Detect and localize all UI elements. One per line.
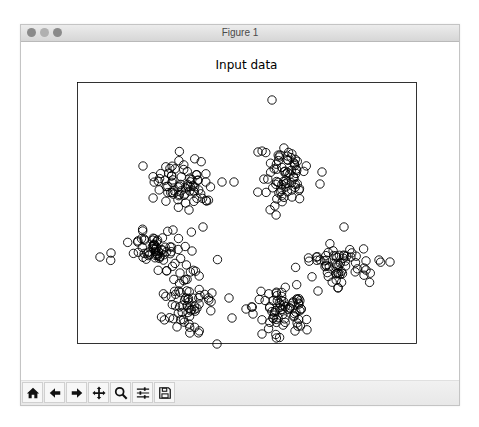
data-point <box>291 263 299 271</box>
data-point <box>386 258 394 266</box>
data-point <box>124 238 132 246</box>
data-point <box>375 256 383 264</box>
save-button[interactable] <box>154 382 175 403</box>
data-point <box>194 176 202 184</box>
data-point <box>164 227 172 235</box>
data-point <box>230 178 238 186</box>
data-point <box>280 144 288 152</box>
data-point <box>341 257 349 265</box>
sliders-icon <box>136 386 150 400</box>
configure-subplots-button[interactable] <box>132 382 153 403</box>
figure-window: Figure 1 Input data <box>20 24 460 406</box>
data-point <box>228 314 236 322</box>
data-point <box>169 226 177 234</box>
data-point <box>162 292 170 300</box>
data-point <box>192 171 200 179</box>
data-point <box>303 326 311 334</box>
title-bar[interactable]: Figure 1 <box>21 25 459 42</box>
data-point <box>293 281 301 289</box>
home-button[interactable] <box>22 382 43 403</box>
home-icon <box>26 386 40 400</box>
data-point <box>359 245 367 253</box>
forward-button[interactable] <box>66 382 87 403</box>
data-point <box>188 247 196 255</box>
data-point <box>316 180 324 188</box>
axes-frame <box>78 83 417 344</box>
data-point <box>202 178 210 186</box>
scatter-plot[interactable] <box>21 42 459 382</box>
data-point <box>206 183 214 191</box>
data-point <box>255 295 263 303</box>
data-point <box>162 197 170 205</box>
data-point <box>199 223 207 231</box>
data-point <box>329 247 337 255</box>
plot-title: Input data <box>77 58 416 72</box>
data-point <box>258 330 266 338</box>
floppy-disk-icon <box>158 386 172 400</box>
data-point <box>156 169 164 177</box>
figure-canvas[interactable]: Input data <box>21 42 459 382</box>
window-title: Figure 1 <box>21 26 459 40</box>
data-point <box>365 278 373 286</box>
data-point <box>258 316 266 324</box>
data-point <box>302 162 310 170</box>
data-point <box>262 188 270 196</box>
data-point <box>139 227 147 235</box>
data-point <box>174 234 182 242</box>
zoom-button[interactable] <box>110 382 131 403</box>
data-point <box>175 147 183 155</box>
data-point <box>225 294 233 302</box>
data-point <box>195 285 203 293</box>
data-point <box>96 253 104 261</box>
data-point <box>185 206 193 214</box>
data-point <box>159 290 167 298</box>
data-point <box>257 287 265 295</box>
data-point <box>138 225 146 233</box>
data-point <box>261 296 269 304</box>
data-point <box>213 255 221 263</box>
back-button[interactable] <box>44 382 65 403</box>
data-point <box>155 186 163 194</box>
navigation-toolbar <box>21 380 459 405</box>
move-icon <box>92 386 106 400</box>
data-point <box>340 223 348 231</box>
data-point <box>176 254 184 262</box>
data-point <box>268 96 276 104</box>
scatter-points <box>96 96 394 348</box>
data-point <box>254 188 262 196</box>
data-point <box>149 194 157 202</box>
data-point <box>154 266 162 274</box>
data-point <box>202 170 210 178</box>
data-point <box>170 275 178 283</box>
data-point <box>308 273 316 281</box>
data-point <box>207 307 215 315</box>
data-point <box>318 168 326 176</box>
data-point <box>163 267 171 275</box>
data-point <box>314 287 322 295</box>
data-point <box>291 327 299 335</box>
data-point <box>351 259 359 267</box>
data-point <box>187 228 195 236</box>
magnifier-icon <box>114 386 128 400</box>
data-point <box>295 195 303 203</box>
data-point <box>213 340 221 348</box>
arrow-left-icon <box>48 386 62 400</box>
arrow-right-icon <box>70 386 84 400</box>
data-point <box>139 162 147 170</box>
data-point <box>218 178 226 186</box>
pan-button[interactable] <box>88 382 109 403</box>
data-point <box>302 315 310 323</box>
data-point <box>272 180 280 188</box>
